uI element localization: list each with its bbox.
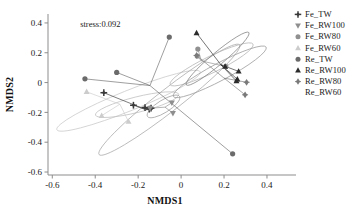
spider-line-fe_rw60 <box>102 104 120 115</box>
y-tick-label: -0.4 <box>28 137 43 147</box>
legend-label-re_tw: Re_TW <box>305 54 333 64</box>
y-tick-label: 0 <box>38 78 43 88</box>
legend-label-fe_rw60: Fe_RW60 <box>305 43 341 53</box>
legend-label-fe_rw100: Fe_RW100 <box>305 20 345 30</box>
data-point-fe_rw60 <box>84 89 90 94</box>
data-point-fe_tw <box>100 89 107 96</box>
y-tick-label: -0.2 <box>28 108 42 118</box>
spider-line-re_tw <box>85 79 150 86</box>
data-point-fe_tw <box>130 102 137 109</box>
spider-line-fe_rw60 <box>120 104 129 121</box>
legend-label-fe_rw80: Fe_RW80 <box>305 31 341 41</box>
ellipse-fe-rw60 <box>53 62 204 139</box>
data-point-fe_rw100 <box>170 111 176 116</box>
plot-canvas: -0.6-0.4-0.200.20.40.40.20-0.2-0.4-0.6 F… <box>0 0 363 212</box>
x-tick-label: 0.4 <box>261 180 273 190</box>
legend-label-re_rw60: Re_RW60 <box>305 87 342 97</box>
data-point-re_rw100 <box>194 30 200 35</box>
axis-layer: -0.6-0.4-0.200.20.40.40.20-0.2-0.4-0.6 <box>28 14 296 190</box>
x-tick-label: 0 <box>179 180 184 190</box>
x-tick-label: -0.6 <box>45 180 60 190</box>
legend: Fe_TWFe_RW100Fe_RW80Fe_RW60Re_TWRe_RW100… <box>295 9 346 97</box>
legend-label-re_rw100: Re_RW100 <box>305 65 346 75</box>
x-tick-label: -0.4 <box>88 180 103 190</box>
x-axis-title: NMDS1 <box>147 195 182 206</box>
triangle-down-icon <box>295 23 301 28</box>
ellipse-re-tw <box>92 36 246 163</box>
y-tick-label: -0.6 <box>28 167 43 177</box>
spider-line-layer <box>85 33 247 154</box>
data-point-re_tw <box>82 76 87 81</box>
x-tick-label: -0.2 <box>131 180 145 190</box>
y-tick-label: 0.2 <box>31 48 42 58</box>
y-tick-label: 0.4 <box>31 18 43 28</box>
nmds-ordination-figure: -0.6-0.4-0.200.20.40.40.20-0.2-0.4-0.6 F… <box>0 0 363 212</box>
data-point-re_tw <box>167 35 172 40</box>
diamond-icon <box>295 78 301 85</box>
circle-icon <box>296 34 301 39</box>
data-point-re_tw <box>114 70 119 75</box>
y-axis-title: NMDS2 <box>4 77 15 112</box>
data-point-fe_rw60 <box>99 112 105 117</box>
plus-icon <box>295 11 302 18</box>
data-point-fe_rw80 <box>195 46 200 51</box>
spider-line-re_rw80 <box>224 78 245 95</box>
legend-label-re_rw80: Re_RW80 <box>305 76 342 86</box>
triangle-up-icon <box>295 67 301 72</box>
circle-icon <box>296 57 301 62</box>
spider-line-re_rw80 <box>197 55 224 78</box>
stress-annotation: stress:0.092 <box>80 19 120 29</box>
x-tick-label: 0.2 <box>218 180 229 190</box>
legend-label-fe_tw: Fe_TW <box>305 9 333 19</box>
ellipse-fe-rw80 <box>167 37 257 92</box>
triangle-up-icon <box>295 45 301 50</box>
data-point-re_rw80 <box>244 79 250 86</box>
spider-line-re_tw <box>150 86 233 154</box>
data-point-re_tw <box>230 151 235 156</box>
data-point-re_rw80 <box>242 91 248 98</box>
